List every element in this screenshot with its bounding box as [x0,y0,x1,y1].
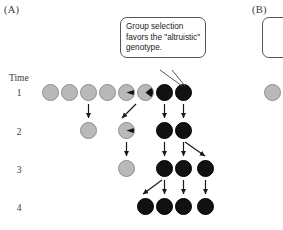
callout-b-line-2 [268,33,283,44]
arrow-r3-to-r4 [143,180,206,194]
callout-a-line-3: genotype. [126,43,200,54]
callout-a-line-2: favors the "altruistic" [126,33,200,44]
callout-tail-a [160,70,185,86]
callout-bubble-a: Group selection favors the "altruistic" … [120,17,206,58]
group-circle-panel-b-r1c1 [264,84,281,101]
callout-b-line-3 [268,43,283,54]
callout-a-line-1: Group selection [126,22,200,33]
arrow-r2-to-r3 [127,142,206,156]
callout-bubble-b [262,17,283,58]
figure-panel-container: (A) (B) Time 1 2 3 4 [0,0,283,230]
arrow-r1-to-r2 [89,104,184,118]
callout-b-line-1 [268,22,283,33]
